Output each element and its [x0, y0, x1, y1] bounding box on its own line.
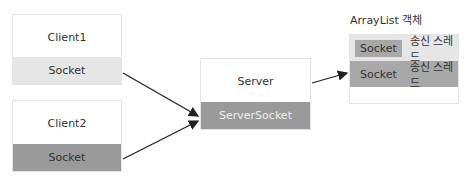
arrow-client2-server [123, 121, 198, 159]
arrow-client1-server [123, 73, 198, 116]
connection-arrows [0, 0, 468, 181]
arrow-server-arraylist [312, 73, 347, 83]
